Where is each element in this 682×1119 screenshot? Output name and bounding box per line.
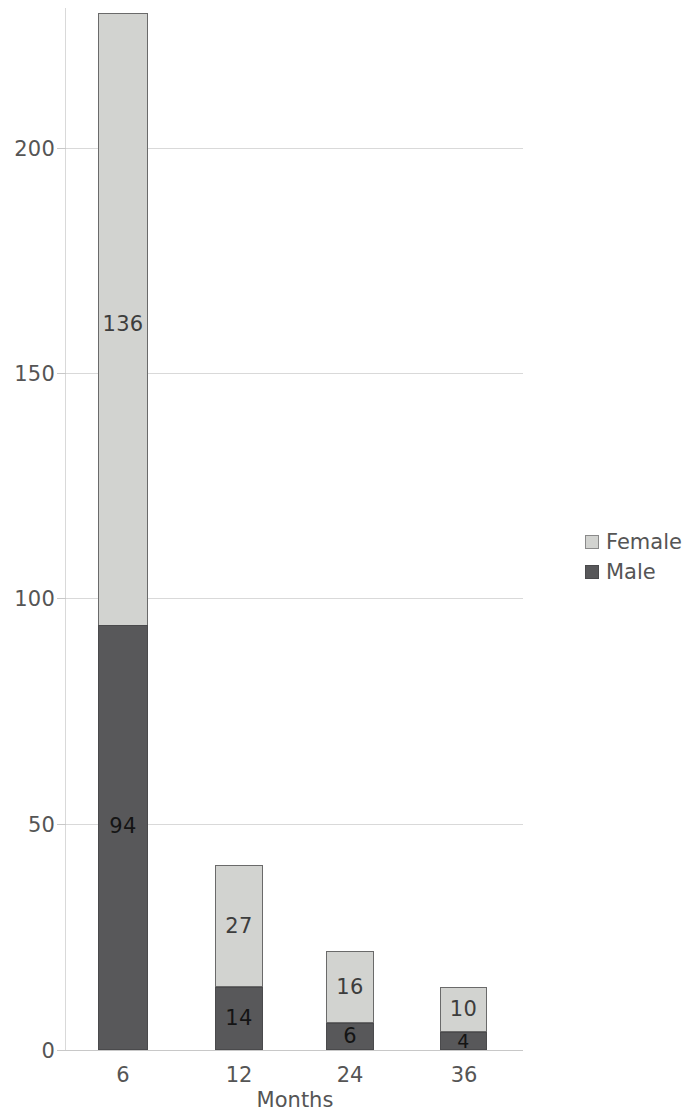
- bar-segment-female-36[interactable]: 10: [440, 987, 487, 1032]
- bar-label-female-12: 27: [225, 916, 252, 937]
- bar-label-female-36: 10: [450, 999, 477, 1020]
- bar-label-male-12: 14: [225, 1008, 252, 1029]
- bar-group-12[interactable]: 27 14: [215, 865, 263, 1050]
- bar-segment-male-12[interactable]: 14: [215, 987, 263, 1050]
- y-tick-label-100: 100: [0, 587, 55, 611]
- x-tick-label-36: 36: [434, 1063, 494, 1087]
- legend-label-female: Female: [606, 530, 682, 554]
- y-tick-label-200: 200: [0, 137, 55, 161]
- bar-label-female-6: 136: [103, 314, 144, 335]
- x-axis-title: Months: [0, 1088, 590, 1112]
- bar-segment-female-12[interactable]: 27: [215, 865, 263, 987]
- bar-segment-male-6[interactable]: 94: [98, 625, 148, 1050]
- legend-swatch-female-icon: [585, 535, 599, 549]
- x-axis-line: [65, 1050, 523, 1051]
- y-tick-mark-100: [57, 598, 66, 599]
- bar-group-6[interactable]: 136 94: [98, 13, 148, 1050]
- x-tick-label-12: 12: [209, 1063, 269, 1087]
- y-tick-label-50: 50: [0, 813, 55, 837]
- x-tick-label-24: 24: [320, 1063, 380, 1087]
- x-tick-label-6: 6: [93, 1063, 153, 1087]
- bar-segment-male-24[interactable]: 6: [326, 1023, 374, 1050]
- y-tick-mark-150: [57, 373, 66, 374]
- bar-segment-female-24[interactable]: 16: [326, 951, 374, 1023]
- y-tick-mark-200: [57, 148, 66, 149]
- bar-segment-male-36[interactable]: 4: [440, 1032, 487, 1050]
- legend-item-male[interactable]: Male: [585, 557, 682, 587]
- bar-label-male-24: 6: [343, 1026, 357, 1047]
- y-tick-label-150: 150: [0, 362, 55, 386]
- y-tick-label-0: 0: [0, 1039, 55, 1063]
- legend-label-male: Male: [606, 560, 656, 584]
- y-axis-line: [65, 8, 66, 1050]
- bar-segment-female-6[interactable]: 136: [98, 13, 148, 626]
- chart-legend: Female Male: [585, 527, 682, 587]
- bar-group-36[interactable]: 10 4: [440, 987, 487, 1050]
- bar-label-female-24: 16: [336, 977, 363, 998]
- bar-group-24[interactable]: 16 6: [326, 951, 374, 1050]
- legend-item-female[interactable]: Female: [585, 527, 682, 557]
- bar-label-male-36: 4: [457, 1032, 469, 1051]
- y-tick-mark-50: [57, 824, 66, 825]
- bar-label-male-6: 94: [109, 816, 136, 837]
- y-tick-mark-0: [57, 1050, 66, 1051]
- legend-swatch-male-icon: [585, 565, 599, 579]
